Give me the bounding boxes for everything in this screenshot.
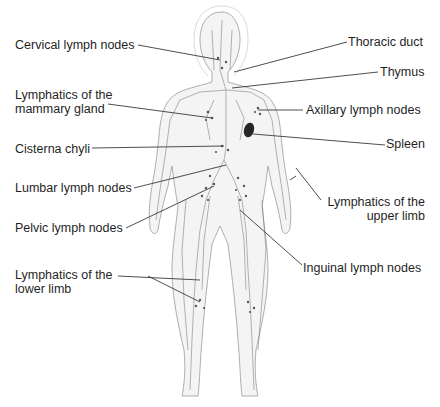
label-axillary-lymph-nodes: Axillary lymph nodes: [306, 103, 421, 117]
label-cisterna-chyli: Cisterna chyli: [15, 142, 90, 156]
label-line-1: Lymphatics of the: [15, 88, 113, 102]
lymphatic-system-diagram: Cervical lymph nodes Lymphatics of the m…: [0, 0, 440, 407]
label-inguinal-lymph-nodes: Inguinal lymph nodes: [303, 261, 421, 275]
label-thoracic-duct: Thoracic duct: [348, 35, 423, 49]
label-line-2: upper limb: [323, 209, 425, 223]
label-lumbar-lymph-nodes: Lumbar lymph nodes: [15, 181, 132, 195]
label-line-1: Lymphatics of the: [15, 268, 113, 282]
label-spleen: Spleen: [386, 137, 425, 151]
label-lymphatics-mammary-gland: Lymphatics of the mammary gland: [15, 88, 113, 116]
label-line-1: Lymphatics of the: [323, 195, 425, 209]
label-cervical-lymph-nodes: Cervical lymph nodes: [15, 38, 135, 52]
label-line-2: mammary gland: [15, 102, 113, 116]
label-pelvic-lymph-nodes: Pelvic lymph nodes: [15, 221, 123, 235]
label-line-2: lower limb: [15, 282, 113, 296]
label-lymphatics-upper-limb: Lymphatics of the upper limb: [323, 195, 425, 223]
label-lymphatics-lower-limb: Lymphatics of the lower limb: [15, 268, 113, 296]
label-thymus: Thymus: [380, 65, 424, 79]
